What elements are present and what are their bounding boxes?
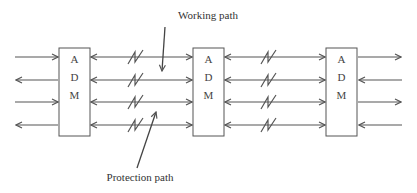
adm2-letter-d: D [205, 71, 213, 83]
span-2-links [225, 50, 325, 132]
span-1-links [91, 50, 192, 132]
adm2-letter-a: A [205, 53, 213, 65]
adm3-letter-a: A [338, 53, 346, 65]
adm-node-2: A D M [193, 48, 224, 136]
right-tributary-arrows [358, 57, 402, 125]
adm3-letter-d: D [338, 71, 346, 83]
protection-path-pointer-arrow [137, 112, 156, 168]
working-path-pointer-arrow [162, 27, 165, 71]
adm-diagram: A D M A D M A D M [0, 0, 417, 193]
adm1-letter-m: M [70, 89, 80, 101]
left-tributary-arrows [15, 57, 58, 125]
adm1-letter-d: D [71, 71, 79, 83]
adm-node-3: A D M [326, 48, 357, 136]
working-path-label: Working path [178, 9, 238, 21]
adm2-letter-m: M [204, 89, 214, 101]
adm3-letter-m: M [337, 89, 347, 101]
adm-node-1: A D M [59, 48, 90, 136]
protection-path-label: Protection path [107, 171, 174, 183]
adm1-letter-a: A [71, 53, 79, 65]
